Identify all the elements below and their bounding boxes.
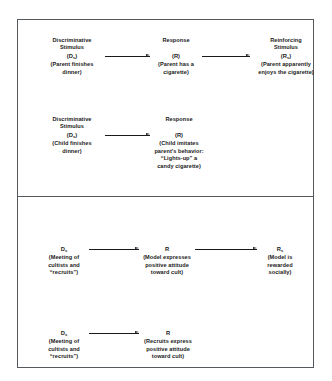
- model-discriminative-stimulus-cell: Ds (Meeting of cultists and “recruits”): [39, 230, 89, 277]
- cell-symbol: R: [166, 329, 170, 338]
- cell-heading: Discriminative Stimulus: [53, 116, 92, 131]
- symbol-close: ): [289, 52, 291, 61]
- figure-frame: Discriminative Stimulus (Ds) (Parent fin…: [17, 19, 314, 368]
- parent-contingency-row: Discriminative Stimulus (Ds) (Parent fin…: [39, 37, 322, 76]
- cell-symbol: (Rs): [281, 52, 291, 61]
- arrow-shaft: [195, 249, 257, 250]
- smoking-panel: Discriminative Stimulus (Ds) (Parent fin…: [18, 20, 313, 197]
- parent-response-cell: Response (R) (Parent has a cigarette): [150, 37, 202, 76]
- cell-caption: (Meeting of cultists and “recruits”): [48, 338, 80, 360]
- cell-heading: Discriminative Stimulus: [53, 37, 92, 52]
- child-response-cell: Response (R) (Child imitates parent's be…: [150, 116, 208, 170]
- cell-heading: Response: [165, 116, 192, 131]
- cell-caption: (Model is rewarded socially): [267, 254, 292, 276]
- symbol-subscript: s: [65, 246, 67, 255]
- cell-caption: (Meeting of cultists and “recruits”): [48, 254, 80, 276]
- symbol-text: R: [165, 245, 169, 254]
- arrow-right-icon: [89, 329, 139, 338]
- symbol-subscript: s: [65, 330, 67, 339]
- cell-symbol: (R): [175, 131, 183, 140]
- cell-symbol: Ds: [61, 329, 68, 338]
- arrow-shaft: [202, 56, 250, 57]
- arrow-shaft: [89, 333, 139, 334]
- cell-caption: (Recruits express positive attitude towa…: [144, 338, 192, 360]
- model-contingency-row: Ds (Meeting of cultists and “recruits”) …: [39, 230, 303, 277]
- parent-reinforcing-stimulus-cell: Reinforcing Stimulus (Rs) (Parent appare…: [250, 37, 322, 76]
- cell-symbol: Rs: [277, 245, 284, 254]
- symbol-close: ): [178, 52, 180, 61]
- arrow-right-icon: [89, 245, 139, 254]
- model-reinforcing-stimulus-cell: Rs (Model is rewarded socially): [257, 230, 303, 277]
- arrow-shaft: [105, 135, 150, 136]
- cell-caption: (Child finishes dinner): [52, 140, 91, 155]
- cell-caption: (Parent has a cigarette): [158, 61, 194, 76]
- cell-symbol: (Ds): [67, 52, 77, 61]
- recruit-contingency-row: Ds (Meeting of cultists and “recruits”) …: [39, 314, 197, 361]
- symbol-text: R: [166, 329, 170, 338]
- arrow-right-icon: [202, 52, 250, 61]
- cell-caption: (Parent apparently enjoys the cigarette): [258, 61, 313, 76]
- symbol-close: ): [75, 52, 77, 61]
- recruit-discriminative-stimulus-cell: Ds (Meeting of cultists and “recruits”): [39, 314, 89, 361]
- arrow-shaft: [89, 249, 139, 250]
- cell-caption: (Child imitates parent's behavior: “Ligh…: [154, 140, 203, 170]
- cell-heading: Response: [162, 37, 189, 52]
- arrow-right-icon: [105, 52, 150, 61]
- cell-heading: Reinforcing Stimulus: [270, 37, 302, 52]
- arrow-right-icon: [105, 131, 150, 140]
- child-discriminative-stimulus-cell: Discriminative Stimulus (Ds) (Child fini…: [39, 116, 105, 155]
- symbol-close: ): [75, 131, 77, 140]
- cell-symbol: (Ds): [67, 131, 77, 140]
- cell-symbol: (R): [172, 52, 180, 61]
- symbol-close: ): [181, 131, 183, 140]
- child-contingency-row: Discriminative Stimulus (Ds) (Child fini…: [39, 116, 208, 170]
- cell-symbol: Ds: [61, 245, 68, 254]
- symbol-subscript: s: [73, 53, 75, 62]
- cell-symbol: R: [165, 245, 169, 254]
- model-response-cell: R (Model expresses positive attitude tow…: [139, 230, 195, 277]
- symbol-subscript: s: [73, 132, 75, 141]
- cult-panel: Ds (Meeting of cultists and “recruits”) …: [18, 197, 313, 367]
- cell-caption: (Parent finishes dinner): [51, 61, 94, 76]
- parent-discriminative-stimulus-cell: Discriminative Stimulus (Ds) (Parent fin…: [39, 37, 105, 76]
- symbol-subscript: s: [281, 246, 283, 255]
- arrow-right-icon: [195, 245, 257, 254]
- arrow-shaft: [105, 56, 150, 57]
- cell-caption: (Model expresses positive attitude towar…: [143, 254, 191, 276]
- symbol-subscript: s: [287, 53, 289, 62]
- recruit-response-cell: R (Recruits express positive attitude to…: [139, 314, 197, 361]
